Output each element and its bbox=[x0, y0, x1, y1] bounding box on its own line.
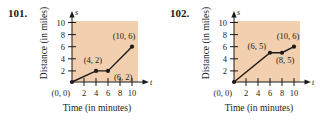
y-ticklabel-4-102: 4 bbox=[223, 54, 228, 64]
y-ticklabel-10-102: 10 bbox=[219, 18, 228, 28]
x-ticklabel-4-102: 4 bbox=[256, 88, 261, 98]
x-ticklabel-6-102: 6 bbox=[268, 88, 272, 98]
x-ticklabel-2-102: 2 bbox=[244, 88, 248, 98]
y-ticklabel-6-101: 6 bbox=[61, 42, 65, 52]
data-point-6-2-101 bbox=[106, 69, 110, 73]
x-axis-variable-102: t bbox=[312, 78, 315, 87]
problem-101: 101. Distance (in miles) Time (in minute… bbox=[0, 0, 162, 126]
data-point-10-6-101 bbox=[130, 45, 134, 49]
x-axis-arrow-101 bbox=[143, 79, 150, 84]
data-point-4-2-101 bbox=[94, 69, 98, 73]
data-point-6-5-102 bbox=[268, 51, 272, 55]
graph-101: Distance (in miles) Time (in minutes) s … bbox=[30, 8, 158, 120]
data-point-0-0-101 bbox=[70, 80, 74, 84]
y-axis-variable-101: s bbox=[75, 8, 78, 17]
y-axis-arrow-102 bbox=[231, 11, 236, 18]
y-axis-arrow-101 bbox=[69, 11, 74, 18]
data-label-8-5-102: (8, 5) bbox=[276, 55, 295, 65]
y-ticklabel-10-101: 10 bbox=[57, 18, 66, 28]
x-ticklabel-6-101: 6 bbox=[106, 88, 110, 98]
x-ticklabel-2-101: 2 bbox=[82, 88, 86, 98]
problem-number-101: 101. bbox=[8, 7, 27, 19]
origin-label-101: (0, 0) bbox=[52, 88, 71, 98]
y-ticklabel-6-102: 6 bbox=[223, 42, 227, 52]
plot-area-101: s t 2 4 6 8 10 2 4 bbox=[30, 8, 158, 120]
graph-102: Distance (in miles) Time (in minutes) s … bbox=[192, 8, 320, 120]
x-ticklabel-8-101: 8 bbox=[118, 88, 122, 98]
origin-label-102: (0, 0) bbox=[214, 88, 233, 98]
y-ticklabel-4-101: 4 bbox=[61, 54, 66, 64]
data-label-6-5-102: (6, 5) bbox=[248, 41, 267, 51]
y-ticklabel-2-102: 2 bbox=[223, 66, 227, 76]
exercise-pair: 101. Distance (in miles) Time (in minute… bbox=[0, 0, 324, 126]
x-axis-variable-101: t bbox=[150, 78, 153, 87]
data-label-6-2-101: (6, 2) bbox=[114, 72, 133, 82]
data-point-0-0-102 bbox=[232, 80, 236, 84]
x-axis-arrow-102 bbox=[305, 79, 312, 84]
x-ticklabel-10-101: 10 bbox=[128, 88, 137, 98]
data-point-10-6-102 bbox=[292, 45, 296, 49]
y-axis-variable-102: s bbox=[237, 8, 240, 17]
y-ticklabel-2-101: 2 bbox=[61, 66, 65, 76]
data-label-10-6-102: (10, 6) bbox=[277, 31, 300, 41]
y-ticklabel-8-102: 8 bbox=[223, 30, 227, 40]
problem-102: 102. Distance (in miles) Time (in minute… bbox=[162, 0, 324, 126]
y-ticklabel-8-101: 8 bbox=[61, 30, 65, 40]
x-ticklabel-10-102: 10 bbox=[290, 88, 299, 98]
x-ticklabel-8-102: 8 bbox=[280, 88, 284, 98]
problem-number-102: 102. bbox=[170, 7, 189, 19]
plot-area-102: s t 2 4 6 8 10 2 4 6 8 bbox=[192, 8, 320, 120]
data-label-10-6-101: (10, 6) bbox=[113, 31, 136, 41]
data-label-4-2-101: (4, 2) bbox=[84, 55, 103, 65]
x-ticklabel-4-101: 4 bbox=[94, 88, 99, 98]
